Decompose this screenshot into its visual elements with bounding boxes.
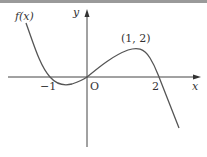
x-axis-label: x (192, 80, 199, 93)
y-axis-arrow-icon (85, 9, 90, 17)
x-axis-arrow-icon (193, 75, 201, 80)
tick-label-neg1: −1 (40, 80, 56, 93)
tick-label-2: 2 (152, 80, 159, 93)
function-label: f(x) (14, 10, 34, 23)
y-axis-label: y (72, 6, 80, 19)
function-graph: f(x) y x O −1 2 (1, 2) (0, 0, 207, 157)
function-curve (26, 23, 179, 128)
max-point-label: (1, 2) (121, 32, 151, 45)
origin-label: O (90, 80, 99, 93)
